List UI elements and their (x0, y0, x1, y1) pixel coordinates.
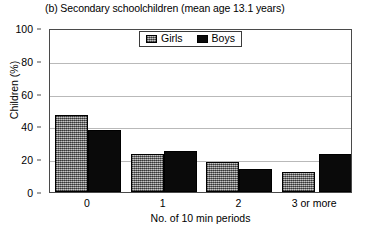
bar-girls-2 (206, 162, 239, 192)
bar-girls-1 (131, 154, 164, 192)
y-tick-mark-40 (37, 127, 41, 128)
legend-swatch-girls (146, 35, 157, 43)
legend-swatch-boys (197, 35, 208, 43)
legend-label-girls: Girls (161, 33, 183, 44)
bar-girls-3-or-more (282, 172, 315, 192)
y-axis-title: Children (%) (8, 45, 20, 135)
x-axis: 0123 or more (49, 197, 352, 211)
bar-boys-3-or-more (319, 154, 352, 192)
x-tick-label-0: 0 (84, 197, 90, 209)
legend-entry-girls: Girls (146, 33, 183, 44)
chart-figure: (b) Secondary schoolchildren (mean age 1… (0, 0, 369, 248)
y-axis: 020406080100 (0, 29, 41, 193)
x-tick-label-3-or-more: 3 or more (292, 197, 337, 209)
x-tick-label-1: 1 (160, 197, 166, 209)
chart-legend: GirlsBoys (139, 31, 242, 47)
y-tick-mark-0 (37, 193, 41, 194)
bar-boys-2 (239, 169, 272, 192)
y-tick-mark-20 (37, 160, 41, 161)
plot-area (49, 29, 352, 193)
y-tick-label-100: 100 (15, 24, 33, 34)
y-tick-label-40: 40 (21, 122, 33, 132)
bar-girls-0 (55, 115, 88, 192)
y-tick-label-20: 20 (21, 155, 33, 165)
legend-entry-boys: Boys (197, 33, 235, 44)
legend-label-boys: Boys (212, 33, 235, 44)
y-tick-label-60: 60 (21, 90, 33, 100)
y-tick-label-0: 0 (27, 188, 33, 198)
chart-title: (b) Secondary schoolchildren (mean age 1… (45, 2, 285, 15)
y-tick-mark-60 (37, 94, 41, 95)
y-tick-mark-100 (37, 29, 41, 30)
gridline-60 (50, 96, 351, 97)
y-tick-mark-80 (37, 61, 41, 62)
x-tick-label-2: 2 (235, 197, 241, 209)
bar-boys-1 (164, 151, 197, 192)
x-axis-title: No. of 10 min periods (49, 212, 352, 224)
bar-boys-0 (88, 130, 121, 192)
gridline-80 (50, 63, 351, 64)
y-tick-label-80: 80 (21, 57, 33, 67)
